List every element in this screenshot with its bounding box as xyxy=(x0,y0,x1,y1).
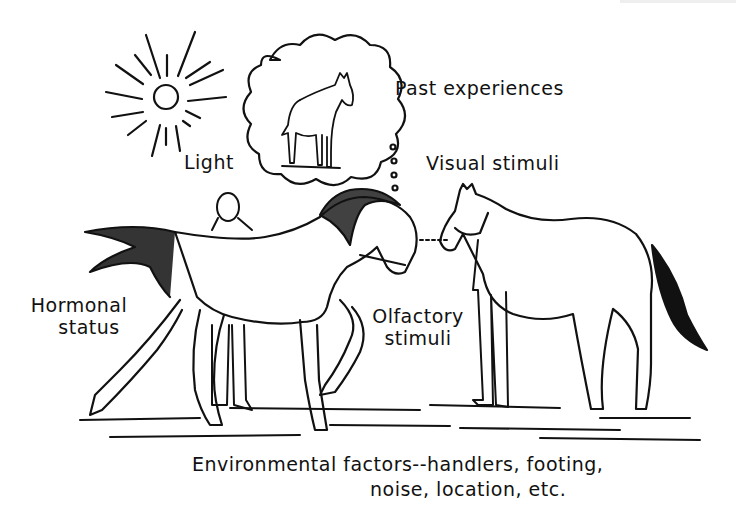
label-olfactory-stimuli: Olfactory stimuli xyxy=(368,305,468,349)
label-environmental-line1: Environmental factors--handlers, footing… xyxy=(192,453,603,475)
label-light: Light xyxy=(184,151,234,173)
label-hormonal-line1: Hormonal xyxy=(24,294,134,316)
sun-icon xyxy=(106,32,226,156)
horse-standing-illustration xyxy=(440,184,707,409)
label-hormonal-line2: status xyxy=(44,316,134,338)
ground-lines xyxy=(80,405,700,440)
label-visual-stimuli: Visual stimuli xyxy=(426,152,560,174)
label-olfactory-line2: stimuli xyxy=(368,327,468,349)
label-past-experiences: Past experiences xyxy=(395,77,564,99)
label-hormonal-status: Hormonal status xyxy=(24,294,134,338)
label-olfactory-line1: Olfactory xyxy=(368,305,468,327)
horse-prancing-illustration xyxy=(85,189,417,430)
illustration xyxy=(0,0,736,517)
label-environmental-line2: noise, location, etc. xyxy=(370,478,566,500)
person-illustration xyxy=(212,193,252,410)
horse-memory-illustration xyxy=(282,73,353,168)
